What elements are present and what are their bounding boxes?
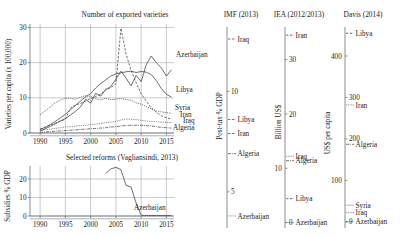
davis-y-axis-label: US$ per capita xyxy=(324,111,332,155)
davis-axis xyxy=(345,27,347,228)
main-series-line xyxy=(40,125,171,132)
davis-marker-labels: LibyaIranAlgeriaSyriaIraqAzerbaijan xyxy=(356,30,388,227)
subsidies-series-label-azerbaijan: Azerbaijan xyxy=(134,204,166,212)
davis-marker-label-azerbaijan: Azerbaijan xyxy=(356,218,388,226)
subsidies-series-labels: Azerbaijan xyxy=(134,204,166,212)
main-series-line xyxy=(40,96,171,115)
davis-panel-title: Davis (2014) xyxy=(344,10,383,19)
iea-panel-title: IEA (2012/2013) xyxy=(274,10,325,19)
imf-y-tick-label: 5 xyxy=(231,188,235,196)
main-y-axis-label: Varieties per capita (x 100,000) xyxy=(5,38,13,129)
imf-marker-label-azerbaijan: Azerbaijan xyxy=(238,213,270,221)
subsidies-x-tick-label: 1990 xyxy=(33,221,48,229)
main-series-label-azerbaijan: Azerbaijan xyxy=(176,51,208,59)
main-x-tick-label: 2010 xyxy=(134,138,149,146)
main-y-tick-label: 0 xyxy=(23,130,27,138)
iea-y-tick-label: 10 xyxy=(275,165,283,173)
imf-panel-title: IMF (2013) xyxy=(224,10,259,19)
subsidies-chart-title: Selected reforms (Vagliansindi, 2013) xyxy=(66,153,179,162)
main-chart-title: Number of exported varieties xyxy=(82,10,169,19)
davis-marker-label-iran: Iran xyxy=(356,102,368,110)
main-y-tick-label: 30 xyxy=(19,24,27,32)
davis-marker-label-algeria: Algeria xyxy=(356,141,378,149)
main-x-tick-label: 1990 xyxy=(33,138,48,146)
subsidies-chart-panel: 01020199019952000200520102015 Azerbaijan… xyxy=(4,166,174,229)
main-y-tick-label: 10 xyxy=(19,94,27,102)
imf-y-axis-label: Post-tax % GDP xyxy=(216,92,224,140)
imf-marker-labels: IraqLibyaIranAlgeriaAzerbaijan xyxy=(238,36,270,221)
iea-y-tick-label: 20 xyxy=(289,111,297,119)
iea-marker-label-iran: Iran xyxy=(296,32,308,40)
iea-marker-label-libya: Libya xyxy=(296,195,314,203)
main-series-line xyxy=(40,56,171,131)
imf-axis xyxy=(227,27,229,228)
iea-marker-label-algeria: Algeria xyxy=(296,157,318,165)
davis-markers xyxy=(346,33,354,222)
subsidies-tick-labels: 01020199019952000200520102015 xyxy=(19,176,174,229)
subsidies-y-tick-label: 0 xyxy=(23,213,27,221)
davis-y-tick-label: 400 xyxy=(331,53,342,61)
iea-y-axis-label: Billion US$ xyxy=(275,104,283,139)
iea-y-tick-label: 0 xyxy=(289,219,293,227)
imf-marker-label-algeria: Algeria xyxy=(238,150,260,158)
subsidies-y-tick-label: 20 xyxy=(19,176,27,184)
iea-axis xyxy=(285,27,287,228)
imf-panel: 510 IraqLibyaIranAlgeriaAzerbaijan Post-… xyxy=(216,27,270,228)
iea-marker-label-azerbaijan: Azerbaijan xyxy=(296,219,328,227)
imf-marker-label-iran: Iran xyxy=(238,130,250,138)
davis-marker-label-libya: Libya xyxy=(356,30,374,38)
imf-marker-label-iraq: Iraq xyxy=(238,36,250,44)
davis-panel: 0100200300400 LibyaIranAlgeriaSyriaIraqA… xyxy=(324,27,388,228)
davis-marker-label-iraq: Iraq xyxy=(356,209,368,217)
iea-y-tick-label: 30 xyxy=(289,56,297,64)
iea-panel: 0102030 IranIraqAlgeriaLibyaAzerbaijan B… xyxy=(275,27,328,228)
subsidies-y-tick-label: 10 xyxy=(19,194,27,202)
iea-tick-labels: 0102030 xyxy=(275,56,297,227)
imf-marker-label-libya: Libya xyxy=(238,116,256,124)
subsidies-x-tick-label: 2000 xyxy=(83,221,98,229)
subsidies-x-tick-label: 1995 xyxy=(58,221,73,229)
main-x-tick-label: 2005 xyxy=(109,138,124,146)
davis-y-tick-label: 0 xyxy=(349,218,353,226)
main-chart-series-group xyxy=(40,28,171,132)
main-chart-panel: 0102030199019952000200520102015 Azerbaij… xyxy=(5,24,208,146)
main-chart-tick-labels: 0102030199019952000200520102015 xyxy=(19,24,174,146)
main-series-label-libya: Libya xyxy=(176,86,194,94)
subsidies-x-tick-label: 2005 xyxy=(109,221,124,229)
main-x-tick-label: 2015 xyxy=(159,138,174,146)
main-chart-axes xyxy=(28,24,174,136)
iea-marker-labels: IranIraqAlgeriaLibyaAzerbaijan xyxy=(296,32,328,227)
main-x-tick-label: 2000 xyxy=(83,138,98,146)
main-chart-gridlines xyxy=(30,24,174,133)
imf-tick-labels: 510 xyxy=(231,88,239,197)
main-y-tick-label: 20 xyxy=(19,59,27,67)
main-series-line xyxy=(40,28,171,129)
davis-y-tick-label: 100 xyxy=(331,177,342,185)
subsidies-x-tick-label: 2015 xyxy=(159,221,174,229)
imf-y-tick-label: 10 xyxy=(231,88,239,96)
davis-tick-labels: 0100200300400 xyxy=(331,53,360,227)
main-series-label-algeria: Algeria xyxy=(173,124,195,132)
figure-root: Number of exported varieties IMF (2013) … xyxy=(0,0,403,237)
main-chart-series-labels: AzerbaijanLibyaSyriaIranIraqAlgeria xyxy=(173,51,208,132)
main-x-tick-label: 1995 xyxy=(58,138,73,146)
subsidies-x-tick-label: 2010 xyxy=(134,221,149,229)
subsidies-y-axis-label: Subsidies % GDP xyxy=(4,170,12,222)
main-series-line xyxy=(40,119,171,131)
